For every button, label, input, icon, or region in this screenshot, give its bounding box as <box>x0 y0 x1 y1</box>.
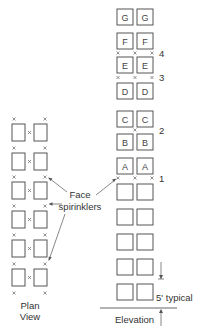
sprinkler-x-icon <box>117 177 120 180</box>
sprinkler-x-icon <box>13 118 16 121</box>
sprinkler-x-icon <box>44 176 47 179</box>
sprinkler-x-icon <box>44 263 47 266</box>
sprinkler-level-label: 3 <box>159 72 164 83</box>
pallet-box <box>117 284 133 300</box>
sprinkler-x-icon <box>134 177 137 180</box>
sprinkler-x-icon <box>13 176 16 179</box>
pallet-label: G <box>141 13 148 23</box>
leader-arrow-icon <box>49 214 66 261</box>
pallet-box <box>137 259 153 275</box>
pallet-box <box>117 234 133 250</box>
pallet-box <box>117 184 133 200</box>
sprinkler-x-icon <box>134 76 137 79</box>
elevation-view: G G F F E E D D C C B B A A <box>100 9 193 326</box>
rack-box <box>12 153 25 170</box>
sprinkler-x-icon <box>44 292 47 295</box>
rack-box <box>34 211 47 228</box>
pallet-label: A <box>122 162 128 172</box>
sprinkler-x-icon <box>13 263 16 266</box>
leader-arrow-icon <box>96 179 117 196</box>
pallet-label: D <box>122 87 129 97</box>
sprinkler-level-label: 4 <box>159 48 164 59</box>
callout-label: Face <box>69 189 90 200</box>
sprinkler-x-icon <box>13 205 16 208</box>
pallet-label: B <box>122 138 128 148</box>
sprinkler-x-icon <box>117 52 120 55</box>
elevation-label: Elevation <box>115 314 154 325</box>
sprinkler-x-icon <box>44 234 47 237</box>
sprinkler-x-icon <box>13 292 16 295</box>
sprinkler-x-icon <box>28 247 31 250</box>
callout-label: spirinklers <box>59 201 102 212</box>
pallet-label: E <box>122 61 128 71</box>
pallet-label: F <box>122 37 128 47</box>
rack-box <box>12 269 25 286</box>
plan-sprinkler-icons <box>13 118 47 295</box>
pallet-box <box>137 234 153 250</box>
pallet-label: A <box>142 162 148 172</box>
pallet-label: C <box>142 115 149 125</box>
sprinkler-x-icon <box>44 118 47 121</box>
sprinkler-x-icon <box>28 218 31 221</box>
pallet-box <box>137 209 153 225</box>
pallet-box <box>137 184 153 200</box>
sprinkler-x-icon <box>117 76 120 79</box>
rack-box <box>34 240 47 257</box>
dimension-arrow-up-icon <box>159 309 163 326</box>
sprinkler-level-label: 2 <box>159 125 164 136</box>
leader-arrow-icon <box>48 178 67 193</box>
pallet-label: G <box>121 13 128 23</box>
sprinkler-x-icon <box>28 189 31 192</box>
pallet-box <box>117 259 133 275</box>
pallet-label: D <box>142 87 149 97</box>
rack-box <box>34 124 47 141</box>
sprinkler-x-icon <box>151 76 154 79</box>
sprinkler-x-icon <box>134 52 137 55</box>
sprinkler-layout-diagram: Plan View G G F F E E D D C C B B <box>0 0 197 330</box>
pallet-label: C <box>122 115 129 125</box>
plan-view: Plan View <box>12 118 47 323</box>
face-sprinklers-callout: Face spirinklers <box>48 178 117 262</box>
pallet-label: F <box>142 37 148 47</box>
sprinkler-x-icon <box>28 131 31 134</box>
sprinkler-x-icon <box>44 205 47 208</box>
rack-box <box>34 153 47 170</box>
pallet-box <box>137 284 153 300</box>
rack-box <box>12 124 25 141</box>
sprinkler-x-icon <box>28 160 31 163</box>
sprinkler-x-icon <box>44 147 47 150</box>
sprinkler-level-label: 1 <box>159 173 164 184</box>
sprinkler-x-icon <box>151 177 154 180</box>
sprinkler-x-icon <box>134 129 137 132</box>
rack-box <box>12 182 25 199</box>
plan-view-label: Plan <box>20 300 39 311</box>
plan-view-label: View <box>20 311 41 322</box>
pallet-label: E <box>142 61 148 71</box>
dimension-arrow-down-icon <box>158 262 164 279</box>
pallet-label: B <box>142 138 148 148</box>
sprinkler-x-icon <box>13 234 16 237</box>
rack-box <box>12 211 25 228</box>
rack-box <box>34 269 47 286</box>
dimension-label: 5' typical <box>156 292 193 303</box>
pallet-box <box>117 209 133 225</box>
sprinkler-x-icon <box>13 147 16 150</box>
rack-box <box>34 182 47 199</box>
sprinkler-x-icon <box>28 276 31 279</box>
rack-box <box>12 240 25 257</box>
sprinkler-x-icon <box>151 52 154 55</box>
